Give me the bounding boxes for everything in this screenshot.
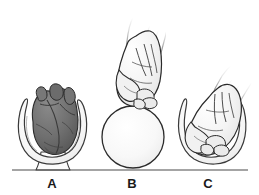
panel-label-c: C — [198, 176, 218, 191]
panel-label-b: B — [122, 176, 142, 191]
figure-illustration — [0, 0, 259, 195]
panel-a-heart-in-pericardium — [18, 84, 86, 170]
figure-container: A B C — [0, 0, 259, 195]
panel-c-fist-in-sac — [179, 58, 257, 164]
panel-label-a: A — [42, 176, 62, 191]
panel-b-fist-above-sphere — [102, 12, 169, 168]
